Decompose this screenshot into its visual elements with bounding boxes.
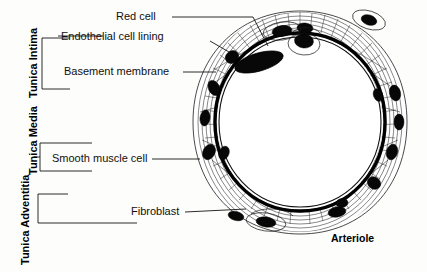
label-red-cell: Red cell — [116, 11, 156, 22]
figure-caption: Arteriole — [331, 232, 374, 244]
label-fibroblast: Fibroblast — [131, 206, 179, 217]
label-smooth-muscle-cell: Smooth muscle cell — [52, 153, 147, 164]
label-basement-membrane: Basement membrane — [64, 66, 169, 77]
label-tunica-media: Tunica Media — [28, 106, 39, 175]
bracket-tunica-intima — [42, 38, 70, 89]
label-endothelial-cell-lining: Endothelial cell lining — [61, 31, 164, 42]
label-tunica-intima: Tunica Intima — [28, 28, 39, 98]
bracket-tunica-adventitia — [38, 194, 137, 223]
label-tunica-adventitia: Tunica Adventitia — [20, 175, 31, 265]
figure-canvas: Tunica Intima Tunica Media Tunica Advent… — [0, 0, 427, 272]
